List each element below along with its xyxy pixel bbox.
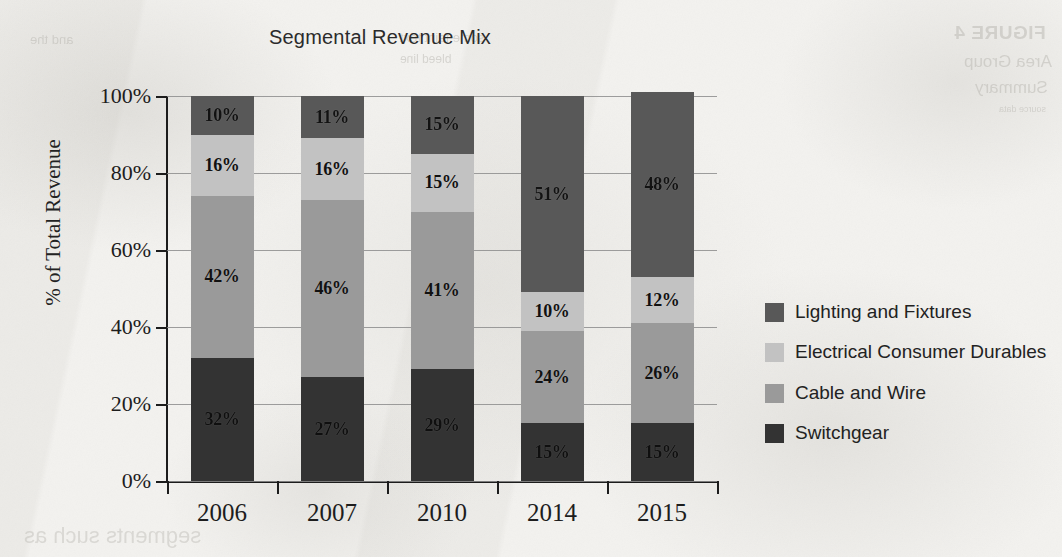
y-tick-label: 80% xyxy=(111,160,151,186)
bar-segment-value-label: 10% xyxy=(204,105,239,126)
bar-segment[interactable]: 15% xyxy=(411,96,474,154)
bar-segment[interactable]: 26% xyxy=(631,323,694,423)
legend-swatch-icon xyxy=(765,303,784,322)
bar-segment-value-label: 15% xyxy=(424,172,459,193)
chart-legend: Lighting and FixturesElectrical Consumer… xyxy=(765,300,1055,461)
bar-segment[interactable]: 15% xyxy=(521,423,584,481)
legend-swatch-icon xyxy=(765,343,784,362)
bar-segment[interactable]: 10% xyxy=(521,292,584,331)
bar-segment-value-label: 10% xyxy=(534,301,569,322)
y-tick-label: 0% xyxy=(122,468,151,494)
bar-segment[interactable]: 51% xyxy=(521,96,584,292)
chart-container: Segmental Revenue Mix % of Total Revenue… xyxy=(0,0,1062,557)
y-tick-label: 60% xyxy=(111,237,151,263)
bar-segment-value-label: 11% xyxy=(315,107,349,128)
legend-label: Electrical Consumer Durables xyxy=(795,340,1046,363)
bar-segment-value-label: 32% xyxy=(204,409,239,430)
bar-segment-value-label: 15% xyxy=(424,114,459,135)
bar-segment-value-label: 41% xyxy=(424,280,459,301)
y-tick-mark xyxy=(156,96,167,98)
bar-segment-value-label: 12% xyxy=(644,290,679,311)
bar-segment[interactable]: 42% xyxy=(191,196,254,358)
x-tick-label-2006: 2006 xyxy=(197,499,247,527)
legend-item[interactable]: Electrical Consumer Durables xyxy=(765,340,1055,363)
bar-segment[interactable]: 48% xyxy=(631,92,694,277)
bar-group-2006[interactable]: 32%42%16%10% xyxy=(191,96,254,481)
x-tick-mark xyxy=(277,481,279,494)
bar-segment[interactable]: 32% xyxy=(191,358,254,481)
legend-item[interactable]: Cable and Wire xyxy=(765,381,1055,404)
legend-item[interactable]: Switchgear xyxy=(765,421,1055,444)
legend-item[interactable]: Lighting and Fixtures xyxy=(765,300,1055,323)
bar-segment-value-label: 51% xyxy=(534,184,569,205)
bar-segment[interactable]: 24% xyxy=(521,331,584,423)
bar-segment-value-label: 48% xyxy=(644,174,679,195)
bar-segment-value-label: 15% xyxy=(534,442,569,463)
x-tick-label-2015: 2015 xyxy=(637,499,687,527)
x-tick-mark xyxy=(167,481,169,494)
bar-segment[interactable]: 15% xyxy=(411,154,474,212)
bar-segment[interactable]: 16% xyxy=(301,138,364,200)
legend-label: Switchgear xyxy=(795,421,889,444)
bar-segment[interactable]: 10% xyxy=(191,96,254,135)
bar-segment[interactable]: 46% xyxy=(301,200,364,377)
y-tick-label: 20% xyxy=(111,391,151,417)
legend-label: Cable and Wire xyxy=(795,381,926,404)
x-tick-label-2007: 2007 xyxy=(307,499,357,527)
legend-swatch-icon xyxy=(765,384,784,403)
bar-segment-value-label: 26% xyxy=(644,363,679,384)
bar-segment-value-label: 15% xyxy=(644,442,679,463)
x-tick-mark xyxy=(497,481,499,494)
bar-group-2014[interactable]: 15%24%10%51% xyxy=(521,96,584,481)
y-tick-mark xyxy=(156,250,167,252)
bar-segment-value-label: 16% xyxy=(204,155,239,176)
x-tick-mark xyxy=(387,481,389,494)
bar-segment-value-label: 29% xyxy=(424,415,459,436)
y-tick-mark xyxy=(156,404,167,406)
x-tick-mark xyxy=(607,481,609,494)
x-tick-label-2014: 2014 xyxy=(527,499,577,527)
y-axis-title: % of Total Revenue xyxy=(41,98,66,348)
legend-label: Lighting and Fixtures xyxy=(795,300,971,323)
bar-group-2010[interactable]: 29%41%15%15% xyxy=(411,96,474,481)
bar-segment-value-label: 46% xyxy=(314,278,349,299)
y-tick-mark xyxy=(156,327,167,329)
gridline xyxy=(167,481,717,482)
bar-group-2007[interactable]: 27%46%16%11% xyxy=(301,96,364,481)
y-tick-mark xyxy=(156,173,167,175)
x-tick-mark xyxy=(717,481,719,494)
bar-segment[interactable]: 12% xyxy=(631,277,694,323)
y-tick-mark xyxy=(156,481,167,483)
bar-group-2015[interactable]: 15%26%12%48% xyxy=(631,92,694,481)
bar-segment[interactable]: 27% xyxy=(301,377,364,481)
x-tick-label-2010: 2010 xyxy=(417,499,467,527)
y-tick-label: 100% xyxy=(100,83,151,109)
chart-title: Segmental Revenue Mix xyxy=(0,26,760,49)
legend-swatch-icon xyxy=(765,424,784,443)
bar-segment[interactable]: 16% xyxy=(191,135,254,197)
y-tick-label: 40% xyxy=(111,314,151,340)
bar-segment[interactable]: 41% xyxy=(411,212,474,370)
bar-segment[interactable]: 29% xyxy=(411,369,474,481)
bar-segment-value-label: 42% xyxy=(204,266,239,287)
bar-segment[interactable]: 15% xyxy=(631,423,694,481)
bar-segment-value-label: 24% xyxy=(534,367,569,388)
plot-area: 0%20%40%60%80%100% 32%42%16%10%27%46%16%… xyxy=(167,96,717,481)
bar-segment[interactable]: 11% xyxy=(301,96,364,138)
bar-segment-value-label: 16% xyxy=(314,159,349,180)
bar-segment-value-label: 27% xyxy=(314,419,349,440)
